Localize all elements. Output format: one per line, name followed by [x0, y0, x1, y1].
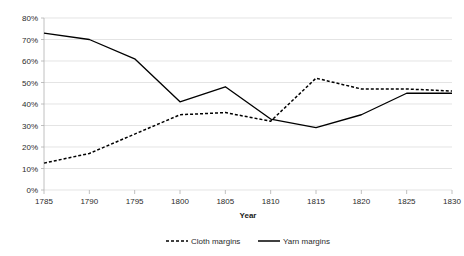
- x-axis-title: Year: [240, 211, 257, 220]
- chart-canvas: 0%10%20%30%40%50%60%70%80% 1785179017951…: [0, 0, 464, 256]
- series-line-yarn-margins: [44, 33, 452, 128]
- y-axis-tick-label: 20%: [22, 143, 38, 152]
- x-axis-tick-label: 1800: [171, 197, 189, 206]
- y-axis-tick-label: 40%: [22, 100, 38, 109]
- x-axis-title-label: Year: [240, 211, 257, 220]
- x-axis-tick-label: 1820: [352, 197, 370, 206]
- y-axis-tick-label: 70%: [22, 36, 38, 45]
- y-axis-tick-label: 10%: [22, 165, 38, 174]
- y-axis-tick-label: 50%: [22, 79, 38, 88]
- x-axis-tick-label: 1825: [398, 197, 416, 206]
- x-axis-tick-label: 1795: [126, 197, 144, 206]
- x-axis-tick-marks: [44, 190, 452, 194]
- x-axis-tick-label: 1815: [307, 197, 325, 206]
- y-axis-tick-labels: 0%10%20%30%40%50%60%70%80%: [22, 14, 44, 195]
- x-axis-tick-label: 1830: [443, 197, 461, 206]
- legend-label-yarn-margins: Yarn margins: [283, 237, 330, 246]
- y-axis-tick-label: 30%: [22, 122, 38, 131]
- y-axis-tick-label: 60%: [22, 57, 38, 66]
- x-axis-tick-label: 1810: [262, 197, 280, 206]
- x-axis-tick-label: 1790: [80, 197, 98, 206]
- y-axis-tick-label: 80%: [22, 14, 38, 23]
- y-axis-tick-label: 0%: [26, 186, 38, 195]
- line-chart: 0%10%20%30%40%50%60%70%80% 1785179017951…: [0, 0, 464, 256]
- x-axis-tick-label: 1805: [216, 197, 234, 206]
- legend-label-cloth-margins: Cloth margins: [191, 237, 240, 246]
- x-axis-tick-label: 1785: [35, 197, 53, 206]
- series-line-cloth-margins: [44, 78, 452, 163]
- data-series-group: [44, 33, 452, 163]
- x-axis-tick-labels: 1785179017951800180518101815182018251830: [35, 197, 461, 206]
- gridlines: [44, 18, 452, 190]
- chart-legend: Cloth marginsYarn margins: [166, 237, 330, 246]
